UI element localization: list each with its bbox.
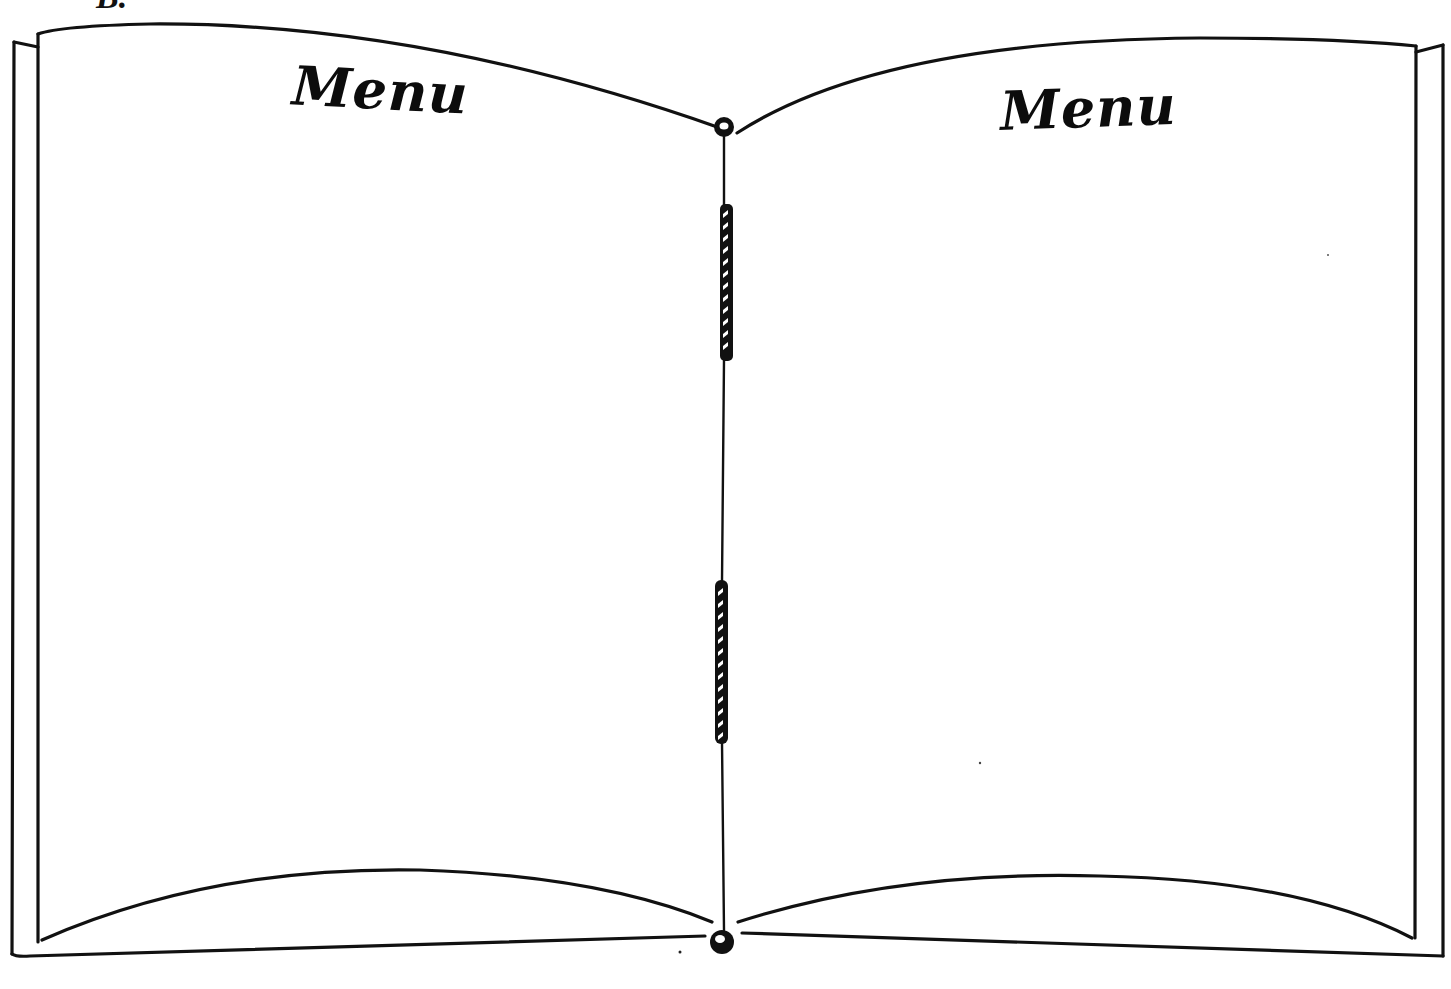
book-line-art bbox=[0, 0, 1451, 989]
top-knot-icon bbox=[714, 117, 734, 137]
right-page bbox=[737, 38, 1416, 938]
twisted-cord-lower bbox=[715, 580, 728, 744]
open-menu-book-illustration: B. bbox=[0, 0, 1451, 989]
left-page bbox=[38, 24, 720, 942]
right-page-title: Menu bbox=[999, 73, 1178, 143]
speck bbox=[679, 951, 682, 954]
left-cover bbox=[12, 42, 705, 956]
right-cover bbox=[742, 45, 1443, 956]
speck bbox=[1327, 254, 1329, 256]
left-page-title: Menu bbox=[290, 53, 470, 126]
twisted-cord-upper bbox=[720, 204, 733, 361]
speck bbox=[979, 762, 981, 764]
bottom-knot-icon bbox=[710, 930, 734, 954]
